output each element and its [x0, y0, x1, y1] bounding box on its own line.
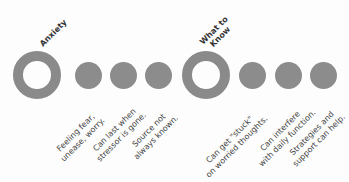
dot-marker-6 — [310, 62, 337, 89]
dot-marker-4 — [239, 62, 266, 89]
group-title-anxiety: Anxiety — [38, 18, 69, 49]
diagram-canvas: Anxiety Feeling fear, unease, worry. Can… — [0, 0, 349, 182]
desc-line: Can get "stuck" — [197, 107, 263, 173]
ring-marker-what-to-know — [182, 51, 230, 99]
dot-marker-5 — [275, 62, 302, 89]
dot-marker-1 — [75, 62, 102, 89]
group-title-what-to-know: What to Know — [198, 15, 236, 53]
ring-marker-anxiety — [13, 51, 61, 99]
title-text: Anxiety — [38, 18, 69, 49]
dot-marker-2 — [110, 62, 137, 89]
dot-marker-3 — [145, 62, 172, 89]
item-description: Can get "stuck" on worried thoughts. — [197, 107, 270, 180]
